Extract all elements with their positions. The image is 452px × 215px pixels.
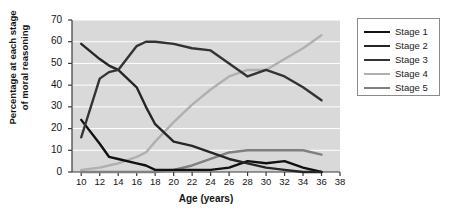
legend-swatch-icon <box>364 59 390 61</box>
legend-label: Stage 4 <box>395 68 428 79</box>
legend-label: Stage 2 <box>395 40 428 51</box>
legend-item-stage-4[interactable]: Stage 4 <box>364 67 428 80</box>
legend: Stage 1Stage 2Stage 3Stage 4Stage 5 <box>357 18 440 96</box>
legend-swatch-icon <box>364 31 390 33</box>
legend-swatch-icon <box>364 45 390 47</box>
x-axis-tick-label: 22 <box>182 176 202 187</box>
x-axis-tick-label: 18 <box>145 176 165 187</box>
y-axis-tick-label: 0 <box>36 166 62 177</box>
legend-label: Stage 5 <box>395 82 428 93</box>
y-axis-tick-label: 40 <box>36 79 62 90</box>
x-axis-tick-label: 36 <box>312 176 332 187</box>
legend-item-stage-1[interactable]: Stage 1 <box>364 25 428 38</box>
x-axis-tick-label: 28 <box>238 176 258 187</box>
x-axis-title: Age (years) <box>72 193 340 204</box>
x-axis-tick-label: 34 <box>293 176 313 187</box>
legend-swatch-icon <box>364 87 390 89</box>
x-axis-tick-label: 24 <box>201 176 221 187</box>
x-axis-tick-label: 32 <box>275 176 295 187</box>
legend-swatch-icon <box>364 73 390 75</box>
x-axis-tick-label: 12 <box>90 176 110 187</box>
x-axis-tick-label: 38 <box>330 176 350 187</box>
x-axis-tick-label: 10 <box>71 176 91 187</box>
y-axis-tick-label: 10 <box>36 144 62 155</box>
x-axis-tick-label: 30 <box>256 176 276 187</box>
y-axis-tick-label: 70 <box>36 14 62 25</box>
x-axis-tick-label: 20 <box>164 176 184 187</box>
y-axis-tick-label: 60 <box>36 35 62 46</box>
legend-item-stage-2[interactable]: Stage 2 <box>364 39 428 52</box>
moral-reasoning-line-chart: Percentage at each stage of moral reason… <box>0 0 452 215</box>
x-axis-tick-label: 26 <box>219 176 239 187</box>
legend-label: Stage 1 <box>395 26 428 37</box>
y-axis-tick-label: 30 <box>36 100 62 111</box>
y-axis-tick-label: 20 <box>36 122 62 133</box>
x-axis-tick-label: 16 <box>127 176 147 187</box>
legend-item-stage-5[interactable]: Stage 5 <box>364 81 428 94</box>
x-axis-tick-label: 14 <box>108 176 128 187</box>
y-axis-tick-label: 50 <box>36 57 62 68</box>
legend-label: Stage 3 <box>395 54 428 65</box>
legend-item-stage-3[interactable]: Stage 3 <box>364 53 428 66</box>
